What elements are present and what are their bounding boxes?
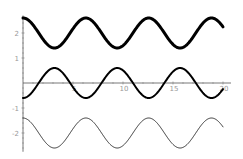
y-tick-label: -2: [12, 130, 19, 138]
y-tick-label: 1: [15, 55, 19, 63]
x-tick-label: 10: [120, 85, 129, 93]
y-tick-label: -1: [12, 105, 19, 113]
x-tick-label: 15: [170, 85, 179, 93]
series-line: [23, 18, 223, 48]
y-tick-label: 2: [15, 30, 19, 38]
chart-plot-area: 510152021-1-2: [0, 0, 243, 159]
axes: 510152021-1-2: [12, 16, 231, 152]
series-line: [23, 118, 223, 148]
